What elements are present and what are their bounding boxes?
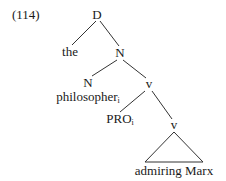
node-the: the: [62, 45, 78, 59]
node-v-upper: v: [146, 77, 153, 91]
branch-v-v: [152, 91, 172, 119]
node-philosopher: philosopheri: [56, 90, 120, 104]
branch-n-v: [123, 60, 146, 78]
branch-n-n: [92, 60, 117, 76]
node-n-upper: N: [115, 46, 124, 60]
node-v-lower: v: [171, 118, 178, 132]
triangle-abbreviation: [145, 132, 203, 162]
node-n-lower: N: [83, 76, 92, 90]
pro-text: PRO: [106, 111, 131, 126]
node-admiring-marx: admiring Marx: [135, 164, 213, 178]
index-i: i: [118, 96, 120, 105]
node-d: D: [92, 8, 101, 22]
branch-d-n: [100, 21, 119, 46]
branch-d-the: [72, 21, 96, 45]
node-pro: PROi: [106, 112, 134, 126]
index-i: i: [132, 118, 134, 127]
branch-v-pro: [120, 91, 145, 112]
philosopher-text: philosopher: [56, 89, 117, 104]
